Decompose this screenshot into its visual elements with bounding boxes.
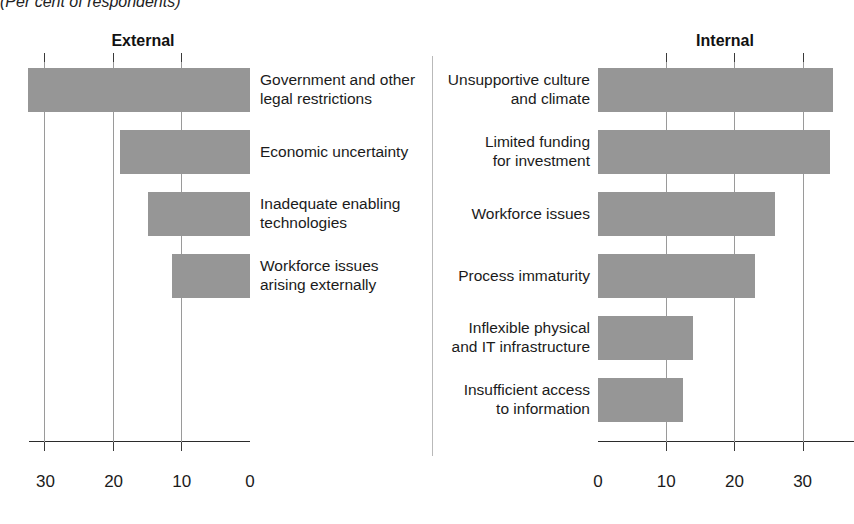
x-axis-line-internal: [598, 441, 854, 442]
category-label-line: Process immaturity: [415, 266, 590, 285]
x-axis-line-external: [29, 441, 250, 442]
category-label-line: arising externally: [260, 275, 425, 294]
category-label-internal-0: Unsupportive cultureand climate: [415, 70, 590, 108]
tick-internal-bottom-20: [734, 442, 735, 451]
category-label-line: Insufficient access: [415, 380, 590, 399]
plot-area-internal: [598, 62, 854, 442]
tick-internal-bottom-30: [803, 442, 804, 451]
tick-label-internal-10: 10: [646, 472, 686, 492]
bar-internal-1: [598, 130, 830, 174]
gridline-external-30: [44, 62, 45, 442]
tick-external-top-20: [113, 53, 114, 62]
tick-internal-top-20: [734, 53, 735, 62]
bar-internal-2: [598, 192, 775, 236]
category-label-line: Government and other: [260, 70, 425, 89]
category-label-line: Workforce issues: [260, 256, 425, 275]
tick-label-internal-20: 20: [714, 472, 754, 492]
tick-label-internal-0: 0: [578, 472, 618, 492]
gridline-external-10: [181, 62, 182, 442]
category-label-external-1: Economic uncertainty: [260, 142, 425, 161]
category-label-internal-2: Workforce issues: [415, 204, 590, 223]
category-label-line: Workforce issues: [415, 204, 590, 223]
category-label-line: and climate: [415, 89, 590, 108]
tick-external-top-10: [181, 53, 182, 62]
category-label-line: technologies: [260, 213, 425, 232]
figure-subtitle: (Per cent of respondents): [0, 0, 181, 11]
gridline-external-20: [113, 62, 114, 442]
category-label-line: Inadequate enabling: [260, 194, 425, 213]
category-label-external-3: Workforce issuesarising externally: [260, 256, 425, 294]
panel-title-internal: Internal: [660, 32, 790, 50]
bar-internal-5: [598, 378, 683, 422]
category-label-internal-4: Inflexible physicaland IT infrastructure: [415, 318, 590, 356]
tick-label-internal-30: 30: [783, 472, 823, 492]
tick-external-bottom-20: [113, 442, 114, 451]
gridline-internal-20: [734, 62, 735, 442]
category-label-internal-1: Limited fundingfor investment: [415, 132, 590, 170]
category-label-internal-3: Process immaturity: [415, 266, 590, 285]
category-label-internal-5: Insufficient accessto information: [415, 380, 590, 418]
category-label-line: Inflexible physical: [415, 318, 590, 337]
gridline-internal-30: [803, 62, 804, 442]
tick-external-bottom-30: [44, 442, 45, 451]
tick-label-external-0: 0: [230, 472, 270, 492]
category-label-line: Unsupportive culture: [415, 70, 590, 89]
plot-area-external: [29, 62, 250, 442]
category-label-line: legal restrictions: [260, 89, 425, 108]
bar-internal-3: [598, 254, 755, 298]
bar-external-1: [120, 130, 250, 174]
category-label-line: Limited funding: [415, 132, 590, 151]
tick-external-bottom-10: [181, 442, 182, 451]
tick-internal-top-30: [803, 53, 804, 62]
bar-internal-4: [598, 316, 693, 360]
tick-label-external-30: 30: [25, 472, 65, 492]
tick-internal-bottom-10: [666, 442, 667, 451]
category-label-external-2: Inadequate enablingtechnologies: [260, 194, 425, 232]
bar-internal-0: [598, 68, 833, 112]
category-label-line: to information: [415, 399, 590, 418]
bar-external-2: [148, 192, 250, 236]
category-label-line: for investment: [415, 151, 590, 170]
bar-external-0: [28, 68, 250, 112]
bar-external-3: [172, 254, 250, 298]
tick-internal-top-10: [666, 53, 667, 62]
figure: (Per cent of respondents) External Inter…: [0, 0, 854, 524]
panel-title-external: External: [78, 32, 208, 50]
tick-label-external-10: 10: [162, 472, 202, 492]
tick-external-top-30: [44, 53, 45, 62]
tick-label-external-20: 20: [94, 472, 134, 492]
category-label-external-0: Government and otherlegal restrictions: [260, 70, 425, 108]
category-label-line: and IT infrastructure: [415, 337, 590, 356]
category-label-line: Economic uncertainty: [260, 142, 425, 161]
